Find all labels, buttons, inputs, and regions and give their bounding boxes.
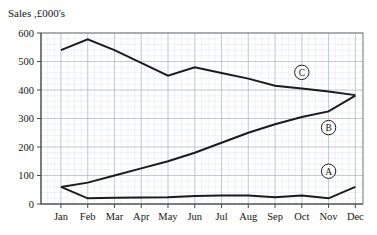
- x-tick-label: Feb: [80, 211, 96, 222]
- x-axis-ticks: JanFebMarAprMayJunJulAugSepOctNovDec: [54, 204, 364, 222]
- series-label-b: B: [325, 123, 331, 133]
- series-label-a: A: [325, 167, 332, 177]
- x-tick-label: Oct: [294, 211, 309, 222]
- x-axis: JanFebMarAprMayJunJulAugSepOctNovDec: [41, 204, 364, 222]
- major-gridlines: [41, 33, 363, 204]
- y-tick-label: 200: [18, 142, 34, 153]
- y-tick-label: 500: [18, 56, 34, 67]
- y-tick-label: 0: [29, 199, 34, 210]
- y-tick-label: 600: [18, 28, 34, 39]
- x-tick-label: Jan: [54, 211, 69, 222]
- y-tick-label: 300: [18, 113, 34, 124]
- x-tick-label: May: [158, 211, 178, 222]
- chart-plot-area: 0100200300400500600 JanFebMarAprMayJunJu…: [0, 0, 377, 235]
- y-tick-label: 400: [18, 85, 34, 96]
- line-chart: Sales ,£000's 0100200300400500600 JanFeb…: [0, 0, 377, 235]
- x-tick-label: Aug: [239, 211, 258, 222]
- x-tick-label: Jul: [215, 211, 227, 222]
- y-tick-label: 100: [18, 170, 34, 181]
- y-axis-ticks: 0100200300400500600: [18, 28, 41, 210]
- x-tick-label: Jun: [187, 211, 202, 222]
- x-tick-label: Nov: [320, 211, 339, 222]
- x-tick-label: Dec: [347, 211, 364, 222]
- x-tick-label: Mar: [106, 211, 124, 222]
- x-tick-label: Sep: [267, 211, 283, 222]
- series-label-c: C: [299, 68, 305, 78]
- x-tick-label: Apr: [133, 211, 150, 222]
- y-axis: 0100200300400500600: [18, 28, 41, 210]
